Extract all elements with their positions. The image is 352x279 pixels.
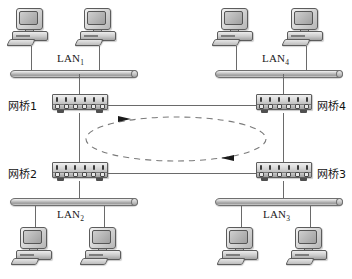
led-indicator <box>288 97 290 102</box>
drop-line-lan3-host-a <box>241 206 242 228</box>
keyboard-icon <box>74 39 103 46</box>
trunk-bridge4-to-bridge3 <box>283 113 284 162</box>
trunk-bridge1-to-bridge2 <box>79 113 80 162</box>
port-jack <box>82 172 87 177</box>
led-indicator <box>56 165 58 170</box>
drop-line-lan2-host-b <box>104 206 105 228</box>
screen-icon <box>87 11 106 25</box>
lan-label-lan3: LAN3 <box>263 208 290 223</box>
keyboard-icon <box>10 258 39 265</box>
led-indicator <box>297 165 299 170</box>
bridge-device-bridge1 <box>52 94 108 113</box>
drop-line-lan3-host-b <box>310 206 311 228</box>
lan-bus-lan3 <box>215 198 343 206</box>
led-indicator <box>65 97 67 102</box>
bridge-port-row <box>55 103 105 109</box>
led-indicator <box>306 165 308 170</box>
lan-label-subscript: 1 <box>80 58 84 67</box>
drive-slot-icon <box>226 254 240 256</box>
bridge-label-bridge4: 网桥4 <box>317 97 346 113</box>
led-indicator <box>84 165 86 170</box>
led-indicator <box>65 165 67 170</box>
bridge-device-bridge3 <box>256 162 312 181</box>
port-jack <box>91 172 96 177</box>
led-indicator <box>74 97 76 102</box>
led-indicator <box>260 97 262 102</box>
keyboard-icon <box>79 258 108 265</box>
screen-icon <box>229 230 248 244</box>
drive-slot-icon <box>291 35 305 37</box>
drop-line-lan4-host-b <box>306 46 307 73</box>
screen-icon <box>23 230 42 244</box>
lan-label-subscript: 2 <box>80 214 84 223</box>
port-jack <box>55 104 60 109</box>
bridge-foot <box>300 178 307 181</box>
led-indicator <box>306 97 308 102</box>
bridge-port-row <box>259 103 309 109</box>
loop-arrow-bottom <box>221 155 234 161</box>
lan-label-subscript: 4 <box>285 58 289 67</box>
port-jack <box>73 172 78 177</box>
port-jack <box>295 104 300 109</box>
port-jack <box>82 104 87 109</box>
bridge-foot <box>261 178 268 181</box>
port-jack <box>91 104 96 109</box>
computer-lan3-host-b <box>287 227 331 267</box>
keyboard-icon <box>281 39 310 46</box>
computer-lan2-host-a <box>12 227 56 267</box>
screen-icon <box>19 11 38 25</box>
bridge-device-bridge2 <box>52 162 108 181</box>
led-indicator <box>102 165 104 170</box>
keyboard-icon <box>211 39 240 46</box>
drive-slot-icon <box>295 254 309 256</box>
computer-lan4-host-b <box>283 8 327 48</box>
computer-lan1-host-b <box>76 8 120 48</box>
network-loop-diagram: LAN1 LAN4 网 <box>0 0 352 279</box>
bridge-foot <box>57 110 64 113</box>
computer-lan4-host-a <box>213 8 257 48</box>
lan-label-text: LAN <box>57 52 80 64</box>
bridge-label-bridge2: 网桥2 <box>8 165 37 181</box>
led-indicator <box>260 165 262 170</box>
drop-line-lan1-host-b <box>99 46 100 73</box>
port-jack <box>100 172 105 177</box>
screen-icon <box>224 11 243 25</box>
drive-slot-icon <box>89 254 103 256</box>
led-indicator <box>93 165 95 170</box>
keyboard-icon <box>6 39 35 46</box>
bus-terminator-icon <box>336 70 343 78</box>
bridge-port-row <box>259 171 309 177</box>
port-jack <box>100 104 105 109</box>
drop-line-lan1-host-a <box>31 46 32 73</box>
bridge-led-row <box>56 164 104 170</box>
port-jack <box>259 104 264 109</box>
bridge-foot <box>96 178 103 181</box>
lan-label-lan2: LAN2 <box>57 208 84 223</box>
bridge-led-row <box>260 96 308 102</box>
led-indicator <box>288 165 290 170</box>
led-indicator <box>278 97 280 102</box>
led-indicator <box>56 97 58 102</box>
port-jack <box>268 172 273 177</box>
bridge-label-bridge3: 网桥3 <box>317 165 346 181</box>
screen-icon <box>294 11 313 25</box>
drive-slot-icon <box>221 35 235 37</box>
port-jack <box>73 104 78 109</box>
loop-arrow-top <box>118 116 131 122</box>
led-indicator <box>269 165 271 170</box>
bridge-led-row <box>260 164 308 170</box>
led-indicator <box>269 97 271 102</box>
link-lan1-to-bridge1 <box>79 74 80 94</box>
led-indicator <box>278 165 280 170</box>
lan-bus-lan2 <box>10 198 138 206</box>
port-jack <box>64 104 69 109</box>
port-jack <box>277 104 282 109</box>
lan-bus-lan4 <box>215 70 343 78</box>
led-indicator <box>297 97 299 102</box>
drop-line-lan4-host-a <box>236 46 237 73</box>
screen-icon <box>92 230 111 244</box>
led-indicator <box>74 165 76 170</box>
bridge-led-row <box>56 96 104 102</box>
bridge-device-bridge4 <box>256 94 312 113</box>
led-indicator <box>102 97 104 102</box>
